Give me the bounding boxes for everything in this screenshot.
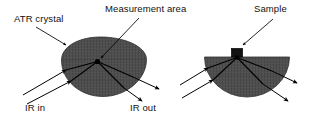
left-crystal-group: [62, 37, 147, 97]
label-sample: Sample: [254, 4, 287, 14]
ir-in-beam-2: [27, 81, 71, 104]
ir-out-beam-1: [133, 77, 159, 89]
label-ir-out: IR out: [130, 103, 156, 113]
atr-crystal-body: [62, 37, 147, 97]
right-ir-in-beam-1: [180, 68, 208, 85]
atr-crystal-leader: [36, 27, 66, 45]
left-ir-in-beams: [23, 70, 71, 104]
right-ir-in-beam-2: [182, 80, 213, 98]
sample-leader: [243, 19, 273, 45]
label-measurement-area: Measurement area: [105, 4, 186, 14]
ir-out-beam-2: [124, 88, 142, 101]
ir-in-beam-1: [23, 70, 66, 95]
figure-canvas: ATR crystal Measurement area Sample IR i…: [0, 0, 319, 125]
right-crystal-group: [205, 57, 290, 97]
label-ir-in: IR in: [25, 103, 45, 113]
hemisphere-crystal-body: [205, 57, 290, 97]
label-atr-crystal: ATR crystal: [14, 14, 63, 24]
